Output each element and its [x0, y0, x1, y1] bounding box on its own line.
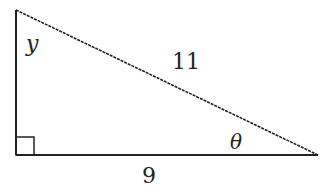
angle-y-label: y [26, 33, 38, 55]
right-angle-marker [16, 137, 34, 155]
hypotenuse [16, 10, 318, 155]
base-label: 9 [142, 165, 156, 187]
triangle-figure [0, 0, 329, 194]
hypotenuse-label: 11 [172, 51, 200, 73]
angle-theta-label: θ [230, 132, 242, 152]
triangle-diagram: y 11 θ 9 [0, 0, 329, 194]
